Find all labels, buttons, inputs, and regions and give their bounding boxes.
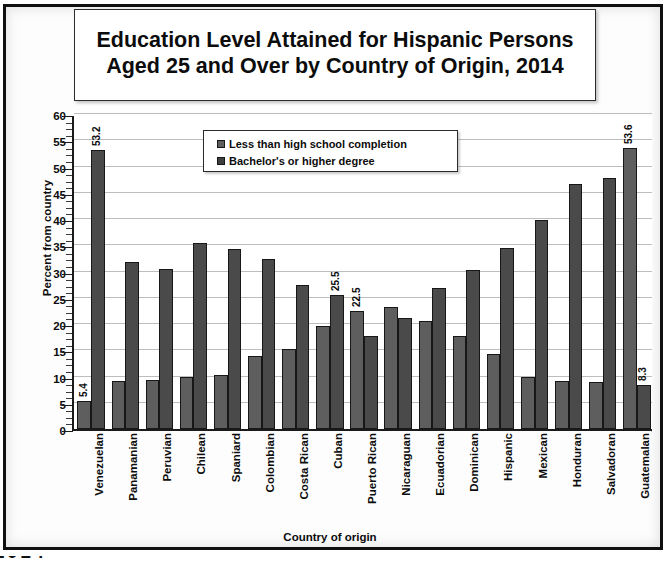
bar xyxy=(193,243,207,429)
chart-legend: Less than high school completion Bachelo… xyxy=(203,130,458,172)
bar xyxy=(637,385,651,429)
x-axis-category-label: Panamanian xyxy=(127,433,139,501)
x-axis-category-label: Nicaraguan xyxy=(400,433,412,496)
x-axis-category-label: Ecuadorian xyxy=(434,433,446,496)
x-axis-category-label: Salvadoran xyxy=(605,433,617,495)
x-axis-category-label: Costa Rican xyxy=(298,433,310,499)
bar xyxy=(603,178,617,429)
bar xyxy=(589,382,603,429)
bar xyxy=(453,336,467,429)
legend-swatch-icon xyxy=(217,140,225,148)
page-title: Education Level Attained for Hispanic Pe… xyxy=(83,28,587,78)
bar xyxy=(248,356,262,430)
bar-value-label: 8.3 xyxy=(637,368,648,382)
legend-item: Bachelor's or higher degree xyxy=(217,153,457,169)
bar xyxy=(350,311,364,429)
bar-value-label: 25.5 xyxy=(330,272,341,291)
x-axis-title: Country of origin xyxy=(0,531,660,543)
bar xyxy=(180,377,194,429)
bar xyxy=(282,349,296,429)
bar xyxy=(535,220,549,429)
bar xyxy=(91,150,105,429)
bar xyxy=(296,285,310,429)
bar xyxy=(555,381,569,429)
x-axis-category-label: Peruvian xyxy=(161,433,173,482)
x-axis-category-label: Spaniard xyxy=(230,433,242,482)
bar xyxy=(432,288,446,429)
x-axis-category-label: Venezuelan xyxy=(93,433,105,496)
bar xyxy=(487,354,501,429)
x-axis-category-label: Hispanic xyxy=(502,433,514,481)
x-axis-category-label: Chilean xyxy=(195,433,207,475)
bar xyxy=(569,184,583,429)
bar-value-label: 5.4 xyxy=(78,383,89,397)
x-axis-category-label: Guatemalan xyxy=(639,433,651,499)
bar xyxy=(384,307,398,429)
x-axis-category-label: Honduran xyxy=(571,433,583,487)
x-axis-category-label: Puerto Rican xyxy=(366,433,378,504)
bar-value-label: 22.5 xyxy=(351,287,362,306)
x-axis-category-labels: VenezuelanPanamanianPeruvianChileanSpani… xyxy=(72,433,652,525)
legend-item: Less than high school completion xyxy=(217,136,457,152)
legend-item-label: Bachelor's or higher degree xyxy=(229,156,375,167)
bar xyxy=(316,326,330,429)
bar xyxy=(623,148,637,429)
bar xyxy=(214,375,228,429)
gridline xyxy=(74,113,652,114)
page-bleed-through: 2014 xyxy=(0,556,668,574)
bar xyxy=(77,401,91,429)
chart-page: Education Level Attained for Hispanic Pe… xyxy=(0,0,668,574)
legend-swatch-icon xyxy=(217,157,225,165)
bar-value-label: 53.6 xyxy=(623,124,634,143)
bar xyxy=(419,321,433,429)
bar xyxy=(228,249,242,429)
x-axis-category-label: Mexican xyxy=(537,433,549,478)
bar xyxy=(500,248,514,429)
x-axis-category-label: Cuban xyxy=(332,433,344,469)
legend-item-label: Less than high school completion xyxy=(229,139,407,150)
bar xyxy=(466,270,480,429)
bar xyxy=(521,377,535,429)
chart-title-box: Education Level Attained for Hispanic Pe… xyxy=(74,9,596,101)
bar xyxy=(159,269,173,429)
bar xyxy=(330,295,344,429)
bleed-text: 2014 xyxy=(0,556,46,563)
x-axis-category-label: Dominican xyxy=(468,433,480,492)
bar xyxy=(125,262,139,429)
bar xyxy=(112,381,126,429)
y-axis-title: Percent from country xyxy=(41,163,53,313)
bar xyxy=(262,259,276,429)
bar-value-label: 53.2 xyxy=(91,126,102,145)
x-axis-category-label: Colombian xyxy=(264,433,276,492)
bar xyxy=(146,380,160,429)
y-axis-major-tick xyxy=(62,431,73,432)
bar xyxy=(398,318,412,429)
bar xyxy=(364,336,378,429)
